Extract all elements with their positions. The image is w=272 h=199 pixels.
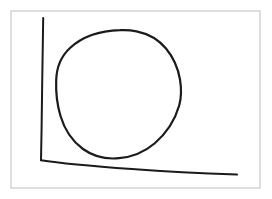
sketch-surface xyxy=(0,0,272,199)
sketch-canvas xyxy=(0,0,272,199)
